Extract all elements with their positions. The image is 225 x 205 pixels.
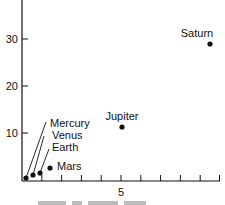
x-tick-label-5: 5 bbox=[118, 186, 124, 198]
point-mars bbox=[47, 165, 52, 170]
label-mars: Mars bbox=[57, 160, 82, 172]
y-tick-label-10: 10 bbox=[6, 127, 18, 139]
point-jupiter bbox=[119, 124, 124, 129]
label-jupiter: Jupiter bbox=[105, 110, 138, 122]
y-tick-label-20: 20 bbox=[6, 80, 18, 92]
clipped-caption bbox=[38, 201, 188, 205]
label-mercury: Mercury bbox=[50, 117, 90, 129]
scatter-chart: 5 10 20 30 Mercury Venus Earth Mars Jupi… bbox=[0, 0, 225, 205]
point-venus bbox=[30, 172, 35, 177]
y-ticks bbox=[22, 39, 28, 133]
label-saturn: Saturn bbox=[181, 27, 213, 39]
point-saturn bbox=[207, 41, 212, 46]
label-venus: Venus bbox=[52, 129, 83, 141]
y-tick-label-30: 30 bbox=[6, 33, 18, 45]
leader-lines bbox=[26, 122, 49, 178]
label-earth: Earth bbox=[52, 141, 78, 153]
point-mercury bbox=[23, 175, 28, 180]
x-ticks bbox=[42, 175, 220, 181]
point-earth bbox=[37, 170, 42, 175]
